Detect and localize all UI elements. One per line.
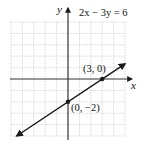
x-axis-label: x (131, 80, 136, 91)
equation-line (17, 64, 125, 136)
point-y-intercept (66, 100, 70, 104)
equation-label: 2x − 3y = 6 (79, 8, 128, 19)
point-x-intercept (100, 77, 104, 81)
y-intercept-label: (0, −2) (71, 103, 100, 114)
x-intercept-label: (3, 0) (83, 64, 106, 75)
y-axis-label: y (57, 4, 62, 15)
graph-plot (0, 0, 146, 147)
